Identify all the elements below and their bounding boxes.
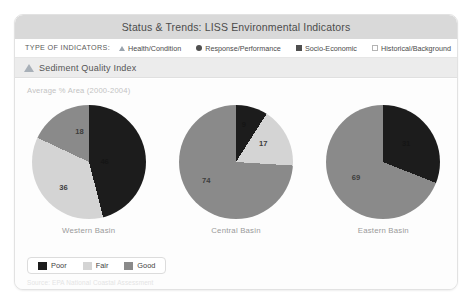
pie-chart-central-basin: 9 17 74 Central Basin	[164, 105, 308, 235]
pie-eastern-basin-graphic: 31 69	[326, 105, 440, 219]
pie-western-basin-graphic: 46 36 18	[32, 105, 146, 219]
pie-western-basin-disc	[32, 105, 146, 219]
indicator-historical-background-label: Historical/Background	[381, 44, 451, 53]
page-title: Status & Trends: LISS Environmental Indi…	[15, 15, 457, 39]
pie-eastern-basin-disc	[326, 105, 440, 219]
indicator-health-condition-label: Health/Condition	[128, 44, 181, 53]
pie-slice-label-eastern-poor: 31	[402, 138, 410, 147]
indicator-historical-background[interactable]: Historical/Background	[372, 44, 451, 53]
pie-caption-western-basin: Western Basin	[62, 226, 115, 235]
indicator-type-label: TYPE OF INDICATORS:	[25, 39, 110, 57]
pie-caption-central-basin: Central Basin	[211, 226, 260, 235]
indicator-response-performance-label: Response/Performance	[205, 44, 281, 53]
triangle-marker-icon	[119, 46, 125, 51]
panel-title-bar: Status & Trends: LISS Environmental Indi…	[15, 15, 457, 39]
chart-area: Average % Area (2000-2004) 46 36 18 West…	[15, 79, 457, 289]
legend-swatch-fair	[83, 262, 92, 270]
pie-slice-label-central-fair: 17	[259, 138, 267, 147]
pie-slice-label-western-poor: 46	[100, 156, 108, 165]
pie-slice-label-central-poor: 9	[242, 120, 246, 129]
pie-chart-eastern-basin: 31 69 Eastern Basin	[311, 105, 455, 235]
triangle-marker-icon	[24, 64, 34, 72]
source-note: Source: EPA National Coastal Assessment	[27, 279, 154, 286]
indicator-socio-economic[interactable]: Socio-Economic	[296, 44, 357, 53]
indicator-type-row: TYPE OF INDICATORS: Health/Condition Res…	[15, 39, 457, 58]
legend-item-good[interactable]: Good	[124, 261, 155, 270]
legend-item-fair[interactable]: Fair	[83, 261, 109, 270]
pie-slice-label-eastern-good: 69	[352, 172, 360, 181]
pie-central-basin-graphic: 9 17 74	[179, 105, 293, 219]
legend-label-poor: Poor	[51, 261, 67, 270]
screenshot-root: Status & Trends: LISS Environmental Indi…	[0, 0, 472, 306]
indicator-health-condition[interactable]: Health/Condition	[119, 44, 181, 53]
indicator-response-performance[interactable]: Response/Performance	[196, 44, 281, 53]
indicator-socio-economic-label: Socio-Economic	[305, 44, 357, 53]
chart-subtitle: Average % Area (2000-2004)	[27, 86, 130, 95]
legend-label-fair: Fair	[96, 261, 109, 270]
pie-slice-label-central-good: 74	[202, 176, 210, 185]
square-marker-icon	[296, 45, 302, 51]
chart-legend: Poor Fair Good	[27, 257, 166, 274]
pie-chart-group: 46 36 18 Western Basin 9 17 74 Central B…	[15, 105, 457, 245]
legend-label-good: Good	[137, 261, 155, 270]
section-title: Sediment Quality Index	[39, 63, 136, 73]
open-square-marker-icon	[372, 45, 378, 51]
indicator-type-items: Health/Condition Response/Performance So…	[119, 39, 451, 57]
pie-central-basin-disc	[179, 105, 293, 219]
circle-marker-icon	[196, 45, 202, 51]
legend-swatch-good	[124, 262, 133, 270]
pie-chart-western-basin: 46 36 18 Western Basin	[17, 105, 161, 235]
section-header-sediment-quality-index[interactable]: Sediment Quality Index	[15, 58, 457, 78]
pie-slice-label-western-good: 18	[75, 127, 83, 136]
pie-caption-eastern-basin: Eastern Basin	[358, 226, 409, 235]
legend-item-poor[interactable]: Poor	[38, 261, 67, 270]
pie-slice-label-western-fair: 36	[59, 183, 67, 192]
indicator-panel: Status & Trends: LISS Environmental Indi…	[14, 14, 458, 290]
legend-swatch-poor	[38, 262, 47, 270]
